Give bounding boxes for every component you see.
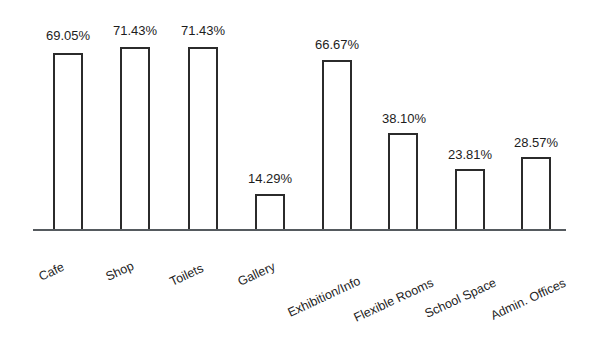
bar-toilets: [188, 47, 218, 230]
x-axis-label-flexible-rooms: Flexible Rooms: [352, 277, 435, 325]
bar-flexible-rooms: [388, 133, 418, 230]
x-axis-label-toilets: Toilets: [168, 262, 205, 288]
value-label: 23.81%: [432, 148, 508, 161]
x-axis-line: [33, 229, 566, 231]
bar-exhibition-info: [322, 60, 352, 230]
bar-school-space: [455, 169, 485, 230]
bar-cafe: [53, 53, 83, 230]
value-label: 38.10%: [366, 112, 442, 125]
bar-chart: 69.05% 71.43% 71.43% 14.29% 66.67% 38.10…: [0, 0, 595, 350]
value-label: 14.29%: [232, 172, 308, 185]
bar-admin-offices: [521, 157, 551, 230]
value-label: 69.05%: [30, 29, 106, 42]
bar-gallery: [255, 194, 285, 230]
x-axis-label-cafe: Cafe: [37, 261, 66, 283]
bar-shop: [120, 47, 150, 230]
value-label: 71.43%: [165, 24, 241, 37]
x-axis-label-shop: Shop: [104, 260, 136, 284]
value-label: 28.57%: [498, 136, 574, 149]
value-label: 66.67%: [299, 38, 375, 51]
x-axis-label-admin-offices: Admin. Offices: [489, 277, 568, 323]
x-axis-label-gallery: Gallery: [236, 260, 277, 288]
value-label: 71.43%: [97, 24, 173, 37]
x-axis-label-school-space: School Space: [423, 276, 498, 320]
